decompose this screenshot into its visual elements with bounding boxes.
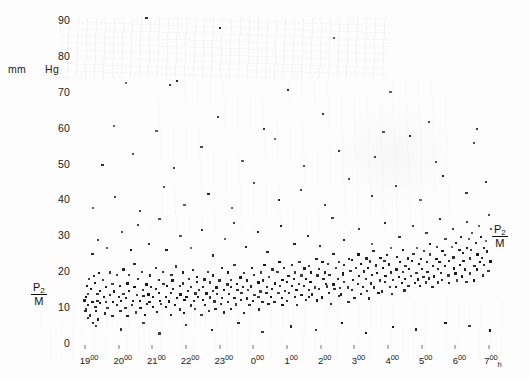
x-axis-tick bbox=[489, 345, 490, 349]
x-axis-tick bbox=[320, 345, 321, 349]
x-axis-tick-label: 2100 bbox=[147, 353, 166, 366]
p2-m-numerator-right: P2 bbox=[492, 224, 508, 236]
figure-canvas: 9080706050403020100 mm Hg 19002000210022… bbox=[0, 0, 530, 379]
x-axis-tick bbox=[388, 345, 389, 349]
x-axis-tick-label: 1900 bbox=[80, 353, 99, 366]
x-axis-tick bbox=[152, 345, 153, 349]
x-axis-tick-label: 500 bbox=[419, 353, 432, 366]
x-axis-tick bbox=[219, 345, 220, 349]
p2-m-marker-left: P2 M bbox=[31, 282, 47, 307]
x-axis-tick bbox=[253, 345, 254, 349]
x-axis-tick bbox=[354, 345, 355, 349]
x-axis-tick-label: 200 bbox=[318, 353, 331, 366]
x-axis: 1900200021002200230000010020030040050060… bbox=[0, 0, 530, 379]
p2-m-numerator-left: P2 bbox=[31, 282, 47, 294]
p2-m-marker-right: P2 M bbox=[492, 224, 508, 249]
x-axis-tick-label: 2200 bbox=[181, 353, 200, 366]
x-axis-tick-label: 2000 bbox=[113, 353, 132, 366]
x-axis-tick-label: 300 bbox=[352, 353, 365, 366]
x-axis-tick-label: 000 bbox=[251, 353, 264, 366]
x-axis-tick-label: 600 bbox=[453, 353, 466, 366]
x-axis-tick bbox=[186, 345, 187, 349]
x-axis-tick bbox=[421, 345, 422, 349]
p2-m-denominator-left: M bbox=[31, 294, 47, 307]
x-axis-tick-label: 2300 bbox=[214, 353, 233, 366]
x-axis-tick bbox=[455, 345, 456, 349]
x-axis-tick bbox=[85, 345, 86, 349]
p2-m-denominator-right: M bbox=[492, 236, 508, 249]
x-axis-tick bbox=[287, 345, 288, 349]
x-axis-tick bbox=[118, 345, 119, 349]
x-axis-tick-label: 400 bbox=[385, 353, 398, 366]
x-axis-tick-label: 700h bbox=[484, 353, 501, 369]
x-axis-tick-label: 100 bbox=[284, 353, 297, 366]
